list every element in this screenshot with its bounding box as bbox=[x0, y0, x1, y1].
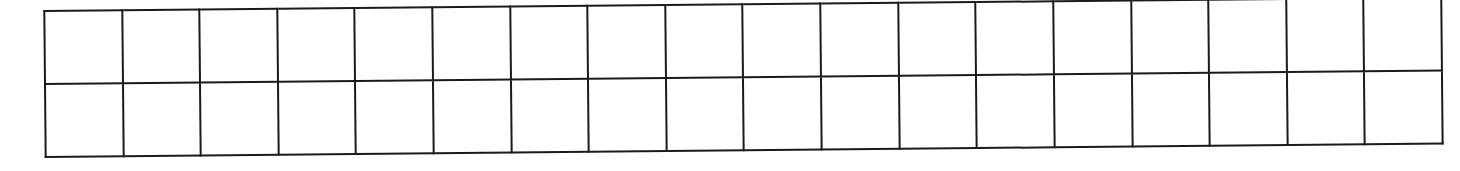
grid-row bbox=[44, 0, 1442, 84]
grid-cell bbox=[200, 82, 278, 156]
grid-cell bbox=[1364, 0, 1442, 71]
grid-cell bbox=[433, 80, 511, 154]
empty-grid bbox=[43, 0, 1443, 158]
grid-cell bbox=[1208, 0, 1286, 73]
grid-cell bbox=[355, 80, 433, 154]
grid-cell bbox=[743, 77, 821, 151]
grid-cell bbox=[355, 7, 433, 81]
grid-cell bbox=[1287, 71, 1365, 145]
grid-body bbox=[44, 0, 1442, 157]
grid-cell bbox=[510, 6, 588, 80]
grid-cell bbox=[1286, 0, 1364, 72]
grid-cell bbox=[1053, 1, 1131, 75]
grid-cell bbox=[898, 2, 976, 76]
grid-cell bbox=[123, 83, 201, 157]
grid-cell bbox=[45, 83, 123, 157]
grid-cell bbox=[588, 5, 666, 79]
grid-row bbox=[45, 71, 1443, 157]
grid-cell bbox=[1131, 0, 1209, 74]
grid-cell bbox=[899, 75, 977, 149]
grid-cell bbox=[666, 77, 744, 151]
grid-cell bbox=[1054, 74, 1132, 148]
grid-cell bbox=[278, 81, 356, 155]
grid-cell bbox=[1131, 73, 1209, 147]
grid-cell bbox=[200, 9, 278, 83]
grid-cell bbox=[1209, 72, 1287, 146]
grid-cell bbox=[665, 4, 743, 78]
grid-cell bbox=[588, 78, 666, 152]
grid-cell bbox=[1364, 71, 1442, 145]
grid-cell bbox=[511, 79, 589, 153]
grid-cell bbox=[976, 74, 1054, 148]
grid-cell bbox=[44, 10, 122, 84]
grid-cell bbox=[277, 8, 355, 82]
empty-grid-container bbox=[43, 0, 1443, 158]
grid-cell bbox=[122, 10, 200, 84]
grid-cell bbox=[820, 3, 898, 77]
grid-cell bbox=[976, 1, 1054, 75]
grid-cell bbox=[743, 4, 821, 78]
grid-cell bbox=[432, 7, 510, 81]
page bbox=[0, 0, 1460, 171]
grid-cell bbox=[821, 76, 899, 150]
